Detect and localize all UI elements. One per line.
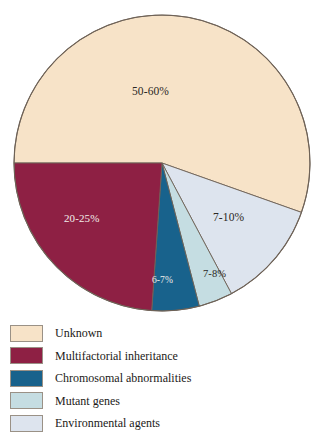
legend-label-unknown: Unknown <box>55 327 102 339</box>
legend-item-multifactorial-inheritance[interactable]: Multifactorial inheritance <box>10 345 310 368</box>
pie-chart-plot-area: 50-60% 20-25% 7-10% 7-8% 6-7% <box>0 0 316 318</box>
pie-slice-multifactorial-inheritance <box>14 163 162 311</box>
legend-label-chromosomal-abnormalities: Chromosomal abnormalities <box>55 372 191 384</box>
legend-item-mutant-genes[interactable]: Mutant genes <box>10 390 310 413</box>
legend-swatch-environmental-agents <box>10 415 43 432</box>
legend-item-unknown[interactable]: Unknown <box>10 322 310 345</box>
legend-swatch-multifactorial-inheritance <box>10 347 43 364</box>
legend-item-environmental-agents[interactable]: Environmental agents <box>10 412 310 434</box>
pie-slice-group <box>14 15 310 311</box>
pie-chart-figure: 50-60% 20-25% 7-10% 7-8% 6-7% UnknownMul… <box>0 0 316 434</box>
legend-label-environmental-agents: Environmental agents <box>55 417 160 429</box>
legend-item-chromosomal-abnormalities[interactable]: Chromosomal abnormalities <box>10 367 310 390</box>
legend-label-mutant-genes: Mutant genes <box>55 395 120 407</box>
legend-swatch-unknown <box>10 325 43 342</box>
pie-chart-svg <box>0 0 316 318</box>
legend-swatch-mutant-genes <box>10 392 43 409</box>
legend-swatch-chromosomal-abnormalities <box>10 370 43 387</box>
legend-label-multifactorial-inheritance: Multifactorial inheritance <box>55 350 178 362</box>
chart-legend: UnknownMultifactorial inheritanceChromos… <box>10 322 310 434</box>
